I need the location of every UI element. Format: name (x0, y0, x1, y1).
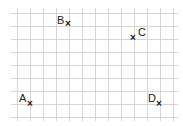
point-label-a: A (19, 93, 26, 104)
point-marker-b: × (65, 19, 71, 29)
point-label-d: D (148, 93, 156, 104)
point-marker-d: × (156, 99, 162, 109)
point-marker-a: × (27, 99, 33, 109)
point-label-c: C (138, 27, 146, 38)
point-marker-c: × (130, 33, 136, 43)
point-label-b: B (57, 15, 64, 26)
